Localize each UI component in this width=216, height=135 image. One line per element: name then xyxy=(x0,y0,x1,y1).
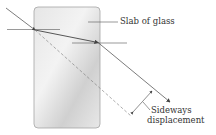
displacement-label-line1: Sideways xyxy=(151,106,192,115)
refraction-diagram: Slab of glass Sideways displacement xyxy=(0,0,216,135)
incident-ray xyxy=(6,8,35,30)
glass-slab xyxy=(34,7,100,128)
emergent-ray xyxy=(98,43,170,103)
slab-label: Slab of glass xyxy=(120,17,175,26)
displacement-label-line2: displacement xyxy=(147,116,205,125)
displacement-label-leader xyxy=(143,102,150,110)
